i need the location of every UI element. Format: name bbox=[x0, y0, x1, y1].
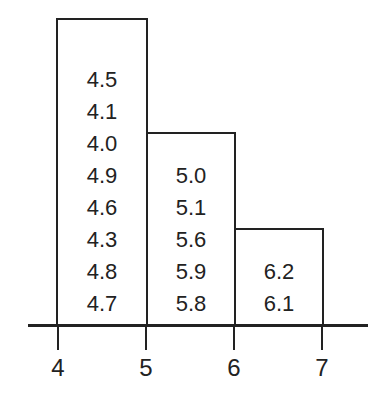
data-value: 5.8 bbox=[176, 288, 207, 320]
data-value: 4.8 bbox=[87, 256, 118, 288]
data-value: 4.7 bbox=[87, 288, 118, 320]
data-value: 4.0 bbox=[87, 128, 118, 160]
x-axis bbox=[28, 324, 368, 327]
bar-4-5: 4.54.14.04.94.64.34.84.7 bbox=[56, 18, 148, 326]
tick-4 bbox=[57, 326, 59, 350]
tick-7 bbox=[321, 326, 323, 350]
data-value: 5.1 bbox=[176, 192, 207, 224]
tick-label-6: 6 bbox=[219, 354, 249, 382]
tick-label-4: 4 bbox=[43, 354, 73, 382]
tick-5 bbox=[145, 326, 147, 350]
tick-label-7: 7 bbox=[307, 354, 337, 382]
bar-5-6: 5.05.15.65.95.8 bbox=[146, 132, 236, 326]
data-value: 4.5 bbox=[87, 64, 118, 96]
data-value: 5.9 bbox=[176, 256, 207, 288]
data-value: 4.3 bbox=[87, 224, 118, 256]
data-value: 5.6 bbox=[176, 224, 207, 256]
data-value: 4.9 bbox=[87, 160, 118, 192]
tick-6 bbox=[233, 326, 235, 350]
data-value: 6.1 bbox=[264, 288, 295, 320]
tick-label-5: 5 bbox=[131, 354, 161, 382]
bar-6-7: 6.26.1 bbox=[234, 228, 324, 326]
data-value: 5.0 bbox=[176, 160, 207, 192]
data-value: 6.2 bbox=[264, 256, 295, 288]
data-value: 4.1 bbox=[87, 96, 118, 128]
data-value: 4.6 bbox=[87, 192, 118, 224]
